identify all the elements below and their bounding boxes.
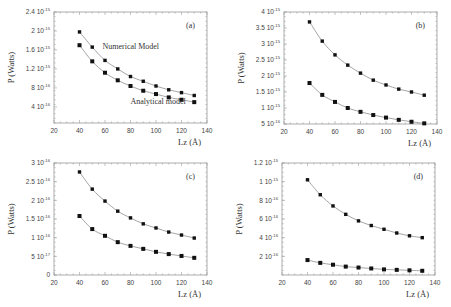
panel-b: 204060801001201404 10-153.5 10-153 10-15… bbox=[236, 7, 443, 148]
y-tick-label: 3.5 10-15 bbox=[256, 23, 281, 31]
y-tick-label: 2.5 10-15 bbox=[256, 55, 281, 63]
numerical-data-point bbox=[116, 67, 119, 70]
panel-label: (a) bbox=[186, 21, 195, 30]
figure: 204060801001201402.4 10-152 10-151.6 10-… bbox=[0, 0, 451, 307]
numerical-data-point bbox=[410, 90, 413, 93]
numerical-data-point bbox=[78, 170, 81, 173]
numerical-data-point bbox=[180, 233, 183, 236]
y-axis-title: P (Watts) bbox=[236, 52, 246, 84]
numerical-data-point bbox=[154, 84, 157, 87]
x-tick-label: 60 bbox=[329, 279, 337, 286]
numerical-data-point bbox=[397, 87, 400, 90]
fit-curve bbox=[80, 172, 195, 238]
panel-label: (b) bbox=[416, 21, 426, 30]
numerical-data-point bbox=[129, 216, 132, 219]
analytical-data-point bbox=[192, 100, 196, 104]
y-axis-title: P (Watts) bbox=[234, 203, 244, 235]
numerical-data-point bbox=[346, 63, 349, 66]
fit-curve bbox=[80, 216, 195, 258]
fit-curve bbox=[310, 83, 425, 123]
x-tick-label: 120 bbox=[404, 279, 415, 286]
x-tick-label: 140 bbox=[202, 279, 213, 286]
numerical-data-point bbox=[423, 94, 426, 97]
analytical-data-point bbox=[422, 121, 426, 125]
y-tick-label: 0 bbox=[46, 271, 50, 278]
x-tick-label: 60 bbox=[101, 279, 109, 286]
analytical-data-point bbox=[308, 81, 312, 85]
numerical-data-point bbox=[78, 30, 81, 33]
analytical-data-point bbox=[180, 254, 184, 258]
y-tick-label: 3 10-15 bbox=[261, 39, 280, 47]
y-tick-label: 1.2 10-15 bbox=[254, 158, 279, 166]
analytical-data-point bbox=[129, 84, 133, 88]
y-tick-label: 1.6 10-15 bbox=[26, 45, 51, 53]
panel-a: 204060801001201402.4 10-152 10-151.6 10-… bbox=[6, 7, 213, 147]
x-tick-label: 20 bbox=[280, 128, 288, 135]
numerical-data-point bbox=[103, 199, 106, 202]
x-tick-label: 40 bbox=[76, 127, 84, 134]
y-tick-label: 4 10-15 bbox=[261, 7, 280, 15]
y-tick-label: 3 10-16 bbox=[31, 158, 50, 166]
numerical-data-point bbox=[395, 231, 398, 234]
y-tick-label: 6 10-16 bbox=[259, 214, 278, 222]
analytical-data-point bbox=[116, 78, 120, 82]
x-tick-label: 140 bbox=[202, 127, 213, 134]
analytical-data-point bbox=[408, 268, 412, 272]
y-tick-label: 2 10-15 bbox=[261, 71, 280, 79]
analytical-data-point bbox=[167, 252, 171, 256]
numerical-data-point bbox=[331, 204, 334, 207]
x-tick-label: 40 bbox=[304, 279, 312, 286]
analytical-data-point bbox=[78, 214, 82, 218]
panel-label: (d) bbox=[414, 172, 424, 181]
y-tick-label: 4 10-16 bbox=[31, 102, 50, 110]
x-tick-label: 80 bbox=[357, 128, 365, 135]
y-tick-label: 4 10-16 bbox=[259, 233, 278, 241]
y-tick-label: 1 10-15 bbox=[261, 103, 280, 111]
y-tick-label: 1.2 10-15 bbox=[26, 64, 51, 72]
analytical-data-point bbox=[103, 71, 107, 75]
analytical-data-point bbox=[420, 269, 424, 273]
analytical-data-point bbox=[346, 106, 350, 110]
numerical-data-point bbox=[306, 178, 309, 181]
analytical-data-point bbox=[397, 118, 401, 122]
analytical-data-point bbox=[90, 227, 94, 231]
y-tick-label: 8 10-16 bbox=[259, 196, 278, 204]
x-axis-title: Lz (Å) bbox=[178, 137, 201, 147]
numerical-data-point bbox=[408, 234, 411, 237]
analytical-data-point bbox=[359, 110, 363, 114]
numerical-data-point bbox=[357, 219, 360, 222]
numerical-data-point bbox=[308, 20, 311, 23]
numerical-data-point bbox=[129, 75, 132, 78]
analytical-data-point bbox=[410, 120, 414, 124]
fit-curve bbox=[310, 22, 425, 95]
analytical-data-point bbox=[141, 247, 145, 251]
y-axis-title: P (Watts) bbox=[6, 203, 16, 235]
analytical-data-point bbox=[371, 113, 375, 117]
y-tick-label: 2.4 10-15 bbox=[26, 7, 51, 15]
numerical-data-point bbox=[344, 213, 347, 216]
numerical-data-point bbox=[116, 209, 119, 212]
fit-curve bbox=[308, 260, 423, 271]
x-tick-label: 100 bbox=[151, 279, 162, 286]
x-axis-title: Lz (Å) bbox=[408, 138, 431, 148]
analytical-data-point bbox=[318, 261, 322, 265]
numerical-data-point bbox=[103, 59, 106, 62]
analytical-data-point bbox=[154, 250, 158, 254]
analytical-data-point bbox=[116, 240, 120, 244]
plot-frame bbox=[282, 163, 435, 275]
x-tick-label: 140 bbox=[430, 279, 441, 286]
analytical-data-point bbox=[192, 256, 196, 260]
fit-curve bbox=[308, 180, 423, 238]
x-axis-title: Lz (Å) bbox=[178, 289, 201, 299]
numerical-data-point bbox=[382, 228, 385, 231]
numerical-data-point bbox=[333, 53, 336, 56]
analytical-data-point bbox=[395, 268, 399, 272]
x-tick-label: 20 bbox=[50, 279, 58, 286]
analytical-data-point bbox=[78, 43, 82, 47]
numerical-data-point bbox=[193, 236, 196, 239]
plot-frame bbox=[54, 12, 207, 123]
y-tick-label: 5 10-16 bbox=[261, 119, 280, 127]
analytical-data-point bbox=[141, 89, 145, 93]
numerical-data-point bbox=[372, 78, 375, 81]
numerical-data-point bbox=[91, 45, 94, 48]
